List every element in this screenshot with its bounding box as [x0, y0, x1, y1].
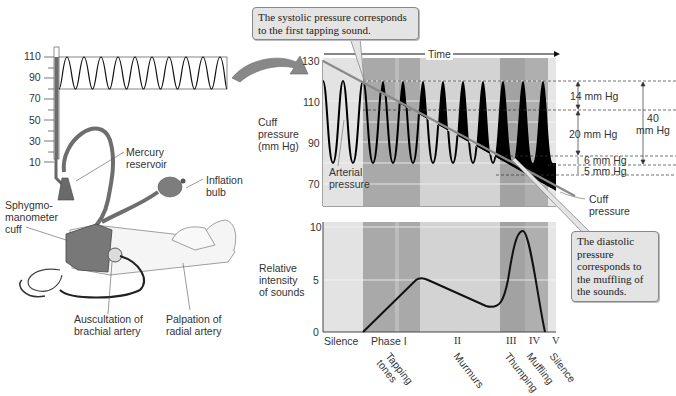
diastolic-callout: The diastolic pressure corresponds to th…: [571, 231, 659, 302]
scale-tick-50: 50: [29, 114, 41, 126]
phase-silence: Silence: [324, 335, 358, 347]
auscultation-label: Auscultation of brachial artery: [74, 313, 143, 337]
systolic-callout: The systolic pressure corresponds to the…: [252, 7, 419, 40]
scale-tick-90: 90: [29, 71, 41, 83]
sound-intensity-chart: [323, 222, 556, 332]
phase-i: Phase I: [371, 335, 407, 347]
inflation-bulb-illustration: [102, 177, 186, 222]
scale-tick-10: 10: [29, 156, 41, 168]
scale-tick-30: 30: [29, 135, 41, 147]
scale-tick-110: 110: [24, 50, 41, 62]
pressure-tick-110: 110: [303, 96, 320, 108]
scale-tick-70: 70: [29, 92, 41, 104]
phase-v: V: [552, 335, 560, 347]
phase-ii: II: [454, 335, 461, 347]
transition-arrow: [232, 56, 308, 82]
annotation-40-mmhg: 40 mm Hg: [636, 112, 670, 136]
pressure-tick-70: 70: [308, 178, 320, 190]
intensity-tick-10: 10: [310, 221, 322, 233]
pressure-chart: [323, 51, 676, 206]
annotation-14-mmhg: 14 mm Hg: [570, 90, 618, 102]
mercury-reservoir-label: Mercury reservoir: [126, 146, 167, 170]
annotation-20-mmhg: 20 mm Hg: [569, 128, 617, 140]
mercury-reservoir-illustration: [56, 129, 113, 232]
time-axis-label: Time: [426, 48, 453, 60]
intensity-axis-label: Relative intensity of sounds: [259, 262, 305, 298]
manometer-oscillation: [59, 57, 227, 89]
inflation-bulb-label: Inflation bulb: [206, 174, 243, 198]
cuff-label: Sphygmo- manometer cuff: [5, 199, 58, 235]
annotation-5-mmhg: 5 mm Hg: [584, 165, 627, 177]
intensity-tick-5: 5: [313, 274, 319, 286]
pressure-axis-label: Cuff pressure (mm Hg): [258, 116, 299, 152]
arterial-pressure-label: Arterial pressure: [329, 166, 370, 190]
pressure-tick-130: 130: [302, 55, 320, 67]
phase-iii: III: [506, 335, 517, 347]
intensity-tick-0: 0: [313, 326, 319, 338]
palpation-label: Palpation of radial artery: [166, 313, 221, 337]
cuff-pressure-label: Cuff pressure: [589, 193, 630, 217]
manometer-scale: [44, 47, 59, 162]
pressure-tick-90: 90: [308, 137, 320, 149]
phase-iv: IV: [529, 335, 540, 347]
